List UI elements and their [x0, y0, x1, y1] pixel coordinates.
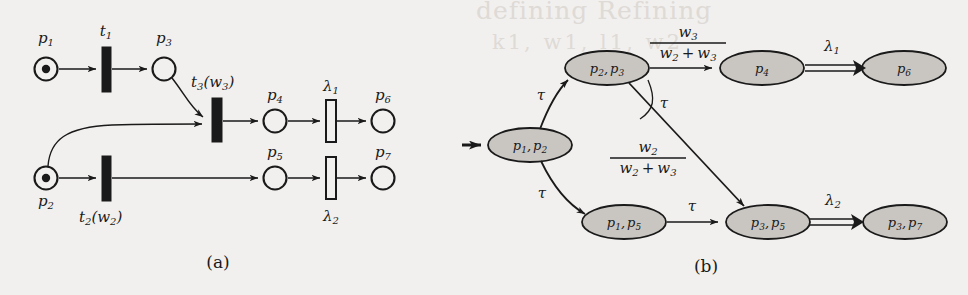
edge-p3p5-to-p3p7	[810, 214, 864, 230]
transition-lambda1[interactable]	[326, 100, 336, 142]
place-p2[interactable]	[35, 167, 58, 190]
panel-b: p1,p2 p2,p3 p4 p6 p1	[462, 23, 947, 276]
panel-a: p1 t1 p3 t3(w3) p2	[35, 22, 395, 272]
edge-label-lambda1: λ1	[823, 37, 840, 56]
caption-a: (a)	[206, 252, 229, 272]
transition-lambda1-label: λ1	[322, 77, 339, 96]
figure-canvas: p1 t1 p3 t3(w3) p2	[0, 0, 968, 295]
caption-b: (b)	[694, 256, 718, 276]
fraction-mid-denominator: w2+w3	[619, 159, 676, 178]
edge-label-tau-choice: τ	[660, 94, 669, 112]
place-p1-label: p1	[38, 29, 54, 48]
state-node-p3-p7[interactable]: p3,p7	[863, 205, 947, 239]
edge-p1p2-to-p1p5	[541, 161, 585, 214]
transition-lambda2[interactable]	[326, 157, 336, 199]
edge-label-lambda2: λ2	[824, 191, 841, 210]
place-p4-label: p4	[267, 86, 283, 105]
place-p5-label: p5	[267, 143, 283, 162]
fraction-top-numerator: w3	[678, 23, 697, 42]
state-node-p4[interactable]: p4	[720, 51, 804, 85]
choice-arc	[640, 80, 653, 119]
edge-label-tau-bottom: τ	[688, 197, 697, 215]
place-p4[interactable]	[264, 110, 287, 133]
edge-label-tau-lower: τ	[538, 184, 547, 202]
place-p3[interactable]	[153, 58, 176, 81]
edge-label-fraction-w3: w3 w2+w3	[650, 23, 726, 63]
edge-label-fraction-w2: w2 w2+w3	[610, 138, 686, 178]
transition-t1[interactable]	[102, 47, 111, 92]
transition-t2[interactable]	[102, 156, 111, 201]
place-p7[interactable]	[372, 167, 395, 190]
state-node-p6[interactable]: p6	[862, 51, 946, 85]
token-dot-p2	[42, 174, 50, 182]
edge-p4-to-p6	[805, 60, 866, 76]
fraction-mid-numerator: w2	[638, 138, 657, 157]
place-p5[interactable]	[264, 167, 287, 190]
state-node-p3-p5[interactable]: p3,p5	[726, 205, 810, 239]
state-node-p1-p5[interactable]: p1,p5	[582, 205, 666, 239]
token-dot-p1	[42, 65, 50, 73]
transition-t2-label: t2(w2)	[79, 208, 122, 227]
state-node-p2-p3[interactable]: p2,p3	[565, 51, 649, 85]
place-p6-label: p6	[375, 86, 392, 105]
transition-t3[interactable]	[212, 98, 222, 142]
place-p1[interactable]	[35, 58, 58, 81]
edge-label-tau-upper: τ	[537, 86, 546, 104]
state-node-p1-p2[interactable]: p1,p2	[488, 128, 572, 162]
arc-p2-t3	[48, 124, 202, 166]
transition-lambda2-label: λ2	[322, 207, 339, 226]
fraction-top-denominator: w2+w3	[659, 44, 716, 63]
place-p6[interactable]	[372, 110, 395, 133]
transition-t1-label: t1	[100, 22, 112, 41]
place-p3-label: p3	[156, 29, 172, 48]
transition-t3-label: t3(w3)	[191, 73, 234, 92]
place-p2-label: p2	[38, 192, 54, 211]
place-p7-label: p7	[375, 143, 392, 162]
